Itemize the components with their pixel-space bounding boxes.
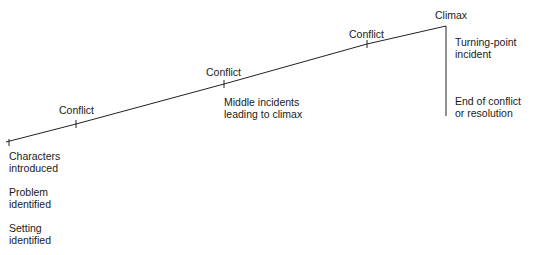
label-turning-point: Turning-point incident (455, 36, 516, 60)
label-conflict-2: Conflict (206, 66, 241, 78)
turning-point-line2: incident (455, 48, 516, 60)
middle-line2: leading to climax (224, 108, 302, 120)
setting-line2: identified (9, 234, 51, 246)
label-conflict-3: Conflict (349, 28, 384, 40)
setting-line1: Setting (9, 222, 51, 234)
label-middle-incidents: Middle incidents leading to climax (224, 96, 302, 120)
characters-line1: Characters (9, 150, 60, 162)
rising-action-line (6, 26, 446, 142)
label-problem-identified: Problem identified (9, 186, 51, 210)
label-conflict-1: Conflict (59, 104, 94, 116)
turning-point-line1: Turning-point (455, 36, 516, 48)
resolution-line2: or resolution (455, 107, 521, 119)
label-resolution: End of conflict or resolution (455, 95, 521, 119)
label-setting-identified: Setting identified (9, 222, 51, 246)
characters-line2: introduced (9, 162, 60, 174)
resolution-line1: End of conflict (455, 95, 521, 107)
problem-line2: identified (9, 198, 51, 210)
label-climax: Climax (435, 9, 467, 21)
label-characters-introduced: Characters introduced (9, 150, 60, 174)
middle-line1: Middle incidents (224, 96, 302, 108)
problem-line1: Problem (9, 186, 51, 198)
